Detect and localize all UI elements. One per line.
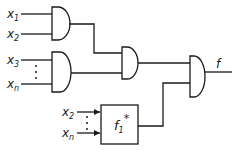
wire-gate1-to-gate3 — [69, 24, 122, 53]
box-input-label-xn: xn — [61, 126, 74, 142]
and-gate-2 — [52, 52, 71, 92]
input-label-x2: x2 — [6, 27, 19, 43]
and-gate-3 — [122, 47, 138, 79]
input-label-xn: xn — [6, 77, 19, 93]
box-input-label-x2: x2 — [61, 105, 74, 121]
function-box-f1-star — [101, 105, 138, 144]
and-gate-1 — [52, 7, 70, 40]
input-label-x3: x3 — [6, 53, 19, 69]
ellipsis-dots-box — [86, 116, 88, 130]
ellipsis-dots-gate2 — [35, 65, 37, 79]
output-label-f: f — [216, 57, 222, 71]
and-gate-4 — [190, 56, 205, 97]
input-label-x1: x1 — [6, 7, 19, 23]
logic-circuit-diagram: x1 x2 x3 xn x2 xn f1* f — [0, 0, 239, 158]
wire-box-to-gate4 — [138, 83, 190, 126]
